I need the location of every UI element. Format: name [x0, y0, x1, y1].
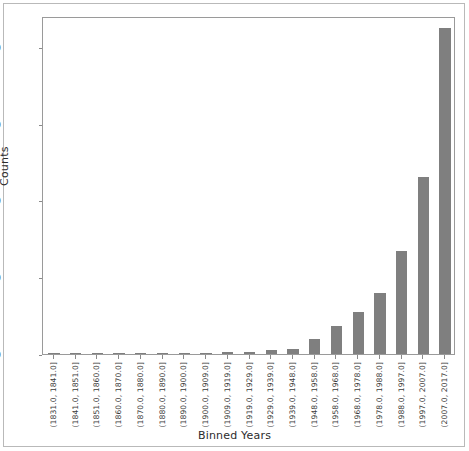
x-tick-label: (1939.0, 1948.0] — [288, 362, 297, 428]
x-tick-mark — [401, 355, 402, 359]
x-tick-label: (1948.0, 1958.0] — [310, 362, 319, 428]
bar — [157, 353, 168, 354]
x-axis-label: Binned Years — [0, 429, 469, 442]
x-tick-label: (1978.0, 1988.0] — [375, 362, 384, 428]
bar — [244, 352, 255, 354]
x-tick-label: (2007.0, 2017.0] — [440, 362, 449, 428]
y-tick-label: 3000 — [0, 120, 1, 130]
plot-area — [42, 17, 455, 355]
x-tick-label: (1988.0, 1997.0] — [397, 362, 406, 428]
x-tick-mark — [75, 355, 76, 359]
x-tick-label: (1997.0, 2007.0] — [418, 362, 427, 428]
bar — [92, 353, 103, 354]
x-tick-label: (1900.0, 1909.0] — [201, 362, 210, 428]
x-tick-mark — [270, 355, 271, 359]
x-tick-mark — [444, 355, 445, 359]
x-tick-label: (1909.0, 1919.0] — [223, 362, 232, 428]
bar — [113, 353, 124, 354]
x-tick-mark — [314, 355, 315, 359]
y-axis-label: Counts — [0, 146, 11, 186]
x-tick-mark — [249, 355, 250, 359]
y-tick-label: 4000 — [0, 43, 1, 53]
x-tick-mark — [140, 355, 141, 359]
x-tick-mark — [183, 355, 184, 359]
x-tick-label: (1958.0, 1968.0] — [331, 362, 340, 428]
bar — [439, 28, 450, 354]
x-tick-label: (1929.0, 1939.0] — [266, 362, 275, 428]
x-tick-mark — [379, 355, 380, 359]
bar — [135, 353, 146, 354]
bar — [287, 349, 298, 354]
x-tick-label: (1968.0, 1978.0] — [353, 362, 362, 428]
x-tick-mark — [96, 355, 97, 359]
bar-series — [43, 18, 454, 354]
bar — [418, 177, 429, 354]
x-tick-mark — [118, 355, 119, 359]
x-tick-label: (1831.0, 1841.0] — [49, 362, 58, 428]
x-tick-mark — [422, 355, 423, 359]
x-tick-mark — [357, 355, 358, 359]
bar — [48, 353, 59, 354]
x-tick-label: (1919.0, 1929.0] — [245, 362, 254, 428]
x-tick-mark — [53, 355, 54, 359]
x-tick-mark — [227, 355, 228, 359]
x-tick-mark — [162, 355, 163, 359]
x-tick-label: (1890.0, 1900.0] — [179, 362, 188, 428]
bar — [331, 326, 342, 354]
x-tick-mark — [292, 355, 293, 359]
y-tick-label: 1000 — [0, 273, 1, 283]
bar — [179, 353, 190, 354]
figure-canvas: Counts 01000200030004000 (1831.0, 1841.0… — [0, 0, 469, 451]
x-tick-label: (1851.0, 1860.0] — [92, 362, 101, 428]
x-tick-label: (1870.0, 1880.0] — [136, 362, 145, 428]
y-tick-label: 0 — [0, 350, 1, 360]
bar — [353, 312, 364, 354]
x-tick-mark — [205, 355, 206, 359]
bar — [266, 350, 277, 354]
bar — [374, 293, 385, 354]
bar — [70, 353, 81, 354]
x-tick-label: (1880.0, 1890.0] — [158, 362, 167, 428]
y-tick-label: 2000 — [0, 196, 1, 206]
bar — [200, 353, 211, 354]
x-tick-label: (1860.0, 1870.0] — [114, 362, 123, 428]
bar — [309, 339, 320, 354]
y-tick-mark — [39, 355, 42, 356]
bar — [222, 352, 233, 354]
bar — [396, 251, 407, 354]
x-tick-mark — [335, 355, 336, 359]
x-tick-label: (1841.0, 1851.0] — [71, 362, 80, 428]
